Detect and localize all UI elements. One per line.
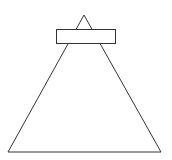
rectangle-shape <box>57 30 116 44</box>
diagram-canvas <box>0 0 172 160</box>
